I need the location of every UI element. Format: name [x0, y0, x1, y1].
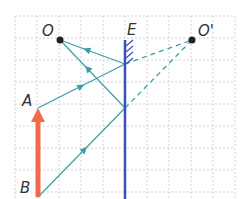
mirror	[125, 40, 133, 199]
label-a: A	[21, 92, 32, 110]
object-arrow	[31, 108, 45, 197]
mirror-hatching	[126, 40, 133, 64]
label-o: O	[42, 22, 54, 40]
ray-arrowheads	[76, 45, 92, 154]
label-e: E	[127, 21, 137, 39]
point-o-prime	[189, 37, 196, 44]
point-o	[57, 37, 64, 44]
real-rays	[38, 40, 125, 197]
label-b: B	[20, 179, 30, 197]
ray-diagram: O E O' A B	[0, 0, 245, 199]
label-o-prime: O'	[198, 22, 214, 40]
virtual-rays	[125, 40, 192, 108]
